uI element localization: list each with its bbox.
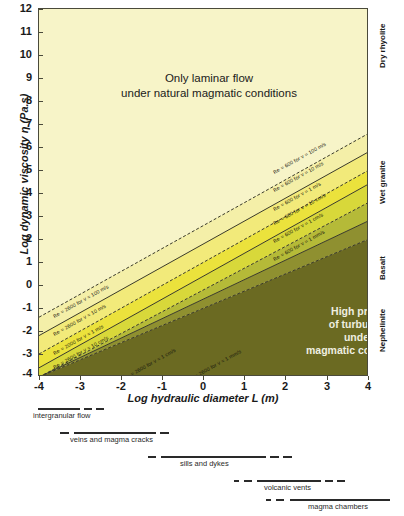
y-tick-m4: -4 [6,368,32,379]
laminar-line-1: Only laminar flow [79,71,339,86]
legend-bar-dash-1 [60,432,69,434]
x-tick-m4: -4 [24,380,54,392]
x-tick-m2: -2 [106,380,136,392]
laminar-line-2: under natural magmatic conditions [79,86,339,101]
rock-label-dry-rhyolite: Dry rhyolite [378,24,387,68]
x-tick-m3: -3 [65,380,95,392]
laminar-annotation: Only laminar flow under natural magmatic… [79,71,339,101]
x-tick-1: 1 [229,380,259,392]
legend-bar-dash-2 [160,432,169,434]
legend-bar-dash-4 [337,480,345,482]
legend-label-volcanic-vents: volcanic vents [264,483,311,492]
rock-label-nephelinite: Nephelinite [378,309,387,352]
legend-bar-solid [290,499,390,501]
legend-bar-dash-2 [96,408,104,410]
turbulent-annotation: High probability of turbulent flow under… [261,305,368,357]
legend-bar-dash-1 [84,408,92,410]
legend-bar-dash-3 [325,480,333,482]
y-tick-11: 11 [6,26,32,37]
x-axis-label: Log hydraulic diameter L (m) [38,392,368,404]
figure-root: Only laminar flow under natural magmatic… [0,0,404,516]
turbulent-line-2: of turbulent flow [261,318,368,331]
legend-label-sills-and-dykes: sills and dykes [180,459,229,468]
y-tick-m2: -2 [6,325,32,336]
x-tick-m1: -1 [147,380,177,392]
y-tick-12: 12 [6,3,32,14]
y-axis-label: Log dynamic viscosity η (Pa.s) [18,54,30,294]
y-tick-m1: -1 [6,302,32,313]
legend-bar-solid [38,408,80,410]
legend-bar-dash-2 [270,456,279,458]
rock-label-wet-granite: Wet granite [378,161,387,204]
legend-bar-dash-1 [148,456,156,458]
scale-legend: intergranular flow veins and magma crack… [0,404,404,516]
x-tick-2: 2 [270,380,300,392]
legend-bar-dash-3 [283,456,292,458]
x-tick-0: 0 [188,380,218,392]
x-tick-3: 3 [312,380,342,392]
rock-label-basalt: Basalt [378,256,387,280]
legend-label-magma-chambers: magma chambers [308,502,368,511]
x-tick-4: 4 [353,380,383,392]
turbulent-line-4: magmatic conditions [261,344,368,357]
legend-bar-solid [257,480,321,482]
y-tick-m3: -3 [6,348,32,359]
legend-bar-dash-1 [234,480,239,482]
legend-bar-dash-1 [266,499,271,501]
turbulent-line-3: under natural [261,331,368,344]
legend-label-veins-and-magma-cracks: veins and magma cracks [70,435,153,444]
plot-area: Only laminar flow under natural magmatic… [38,8,368,376]
legend-bar-dash-2 [244,480,252,482]
legend-bar-dash-2 [276,499,284,501]
legend-bar-solid [161,456,266,458]
legend-label-intergranular-flow: intergranular flow [33,411,91,420]
legend-bar-solid [74,432,156,434]
turbulent-line-1: High probability [261,305,368,318]
